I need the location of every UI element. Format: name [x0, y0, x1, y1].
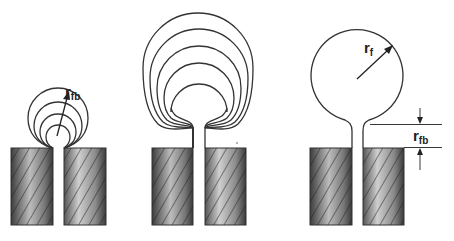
- panel-1-radius-label: rfb: [65, 84, 80, 102]
- speck: [236, 142, 238, 144]
- right-block: [205, 148, 246, 225]
- left-block: [11, 148, 53, 225]
- panel-2: [143, 13, 253, 225]
- nested-bubbles: [143, 13, 253, 148]
- panel-1: [11, 88, 106, 225]
- bubble-radius-arrow: [357, 45, 393, 79]
- label-sub: f: [370, 47, 373, 58]
- label-sub: fb: [419, 135, 428, 146]
- right-block: [363, 148, 404, 225]
- right-block: [64, 148, 106, 225]
- panel-3-stem-height-label: rfb: [413, 128, 428, 146]
- left-block: [152, 148, 193, 225]
- label-sub: fb: [71, 91, 80, 102]
- panel-3-radius-label: rf: [364, 40, 373, 58]
- diagram-canvas: [0, 0, 454, 241]
- left-block: [310, 148, 352, 225]
